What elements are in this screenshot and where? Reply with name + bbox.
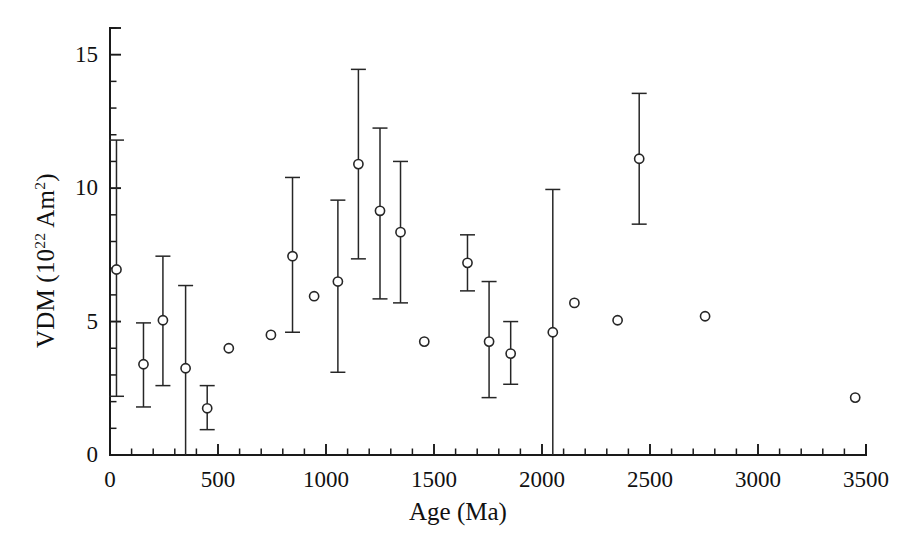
data-point-marker (420, 337, 429, 346)
data-point-marker (354, 160, 363, 169)
data-point-marker (139, 360, 148, 369)
error-bars (109, 69, 647, 455)
data-point-marker (224, 344, 233, 353)
y-tick-label: 0 (87, 442, 99, 468)
x-tick-label: 2000 (519, 467, 565, 493)
plot-area (0, 0, 916, 536)
data-point-marker (635, 154, 644, 163)
y-tick-label: 10 (75, 175, 98, 201)
x-axis-label: Age (Ma) (0, 498, 916, 526)
x-tick-label: 3500 (843, 467, 889, 493)
figure-vdm-vs-age: VDM (1022 Am2) Age (Ma) 0500100015002000… (0, 0, 916, 536)
axis-spines (110, 28, 866, 455)
y-axis-label: VDM (1022 Am2) (31, 111, 60, 411)
y-tick-label: 5 (87, 309, 99, 335)
x-tick-label: 1500 (411, 467, 457, 493)
axis-ticks (110, 28, 866, 455)
data-point-marker (112, 265, 121, 274)
data-point-marker (310, 292, 319, 301)
data-point-marker (851, 393, 860, 402)
data-point-marker (333, 277, 342, 286)
x-tick-label: 500 (201, 467, 236, 493)
data-point-marker (181, 364, 190, 373)
data-point-marker (375, 206, 384, 215)
data-point-marker (700, 312, 709, 321)
x-tick-label: 2500 (627, 467, 673, 493)
data-point-marker (548, 328, 557, 337)
data-point-marker (570, 298, 579, 307)
x-tick-label: 1000 (303, 467, 349, 493)
data-point-marker (203, 404, 212, 413)
data-point-marker (158, 316, 167, 325)
y-tick-label: 15 (75, 42, 98, 68)
data-point-marker (613, 316, 622, 325)
data-point-marker (506, 349, 515, 358)
data-point-marker (463, 258, 472, 267)
data-point-marker (396, 228, 405, 237)
data-point-marker (266, 330, 275, 339)
axes (110, 28, 866, 455)
y-axis-label-text: VDM (1022 Am2) (33, 173, 60, 348)
x-tick-label: 3000 (735, 467, 781, 493)
data-markers (112, 154, 860, 413)
x-tick-label: 0 (104, 467, 116, 493)
data-point-marker (288, 252, 297, 261)
data-point-marker (484, 337, 493, 346)
